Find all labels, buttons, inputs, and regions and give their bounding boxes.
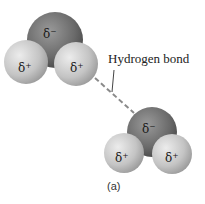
charge-oxygen-top: δ⁻ [43,27,57,41]
charge-hydrogen-top-right: δ⁺ [70,61,84,75]
charge-hydrogen-bottom-left: δ⁺ [115,151,129,165]
label-leader-line [112,70,114,92]
figure-caption: (a) [107,180,120,192]
hydrogen-bond-label: Hydrogen bond [108,51,190,66]
water-hydrogen-bond-diagram: δ⁻ δ⁺ δ⁺ Hydrogen bond δ⁻ δ⁺ δ⁺ (a) [0,0,205,204]
charge-hydrogen-top-left: δ⁺ [18,61,32,75]
water-molecule-bottom: δ⁻ δ⁺ δ⁺ [104,107,192,174]
charge-hydrogen-bottom-right: δ⁺ [165,151,179,165]
water-molecule-top: δ⁻ δ⁺ δ⁺ [4,12,98,86]
hydrogen-bond-line [95,78,134,113]
charge-oxygen-bottom: δ⁻ [142,122,156,136]
